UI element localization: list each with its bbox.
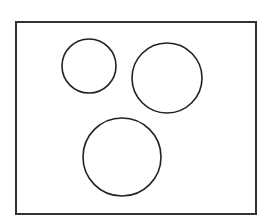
frame-rectangle xyxy=(16,22,256,214)
circle-large xyxy=(83,118,161,196)
circle-small xyxy=(62,39,116,93)
diagram-canvas xyxy=(0,0,274,223)
circle-medium xyxy=(132,43,202,113)
